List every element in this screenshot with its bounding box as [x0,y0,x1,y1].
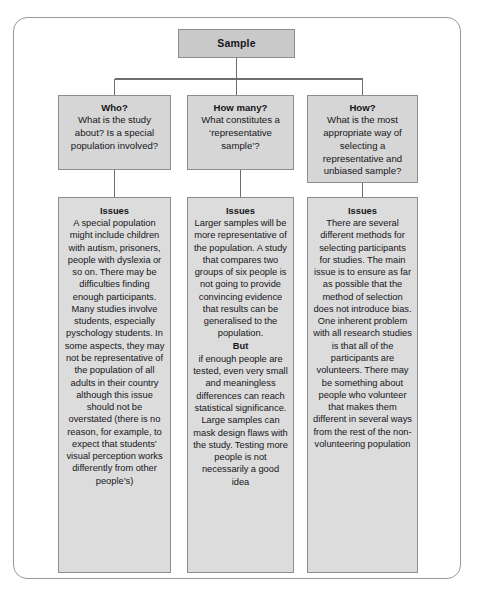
issues-heading-how: Issues [313,205,412,217]
issues-paragraph-1-who: A special population might include child… [64,217,165,303]
question-box-how-many[interactable]: How many? What constitutes a ‘representa… [187,95,294,170]
root-node-sample[interactable]: Sample [178,29,295,58]
question-box-who[interactable]: Who? What is the study about? Is a speci… [58,95,171,170]
issues-heading-who: Issues [64,205,165,217]
issues-heading-how-many: Issues [193,205,288,217]
issues-subheading-but: But [193,340,288,353]
issues-paragraph-1-how: There are several different methods for … [313,217,412,315]
issues-paragraph-2-how: One inherent problem with all research s… [313,315,412,450]
question-heading-who: Who? [65,102,164,114]
question-body-who: What is the study about? Is a special po… [65,114,164,152]
question-heading-how-many: How many? [194,102,287,114]
issues-paragraph-1-how-many: Larger samples will be more representati… [193,217,288,340]
question-heading-how: How? [314,102,411,114]
issues-box-how-many[interactable]: Issues Larger samples will be more repre… [187,197,294,573]
issues-box-how[interactable]: Issues There are several different metho… [307,197,418,573]
root-node-label: Sample [217,37,256,50]
question-box-how[interactable]: How? What is the most appropriate way of… [307,95,418,183]
question-body-how-many: What constitutes a ‘representative sampl… [194,114,287,152]
sampling-issues-flowchart: Sample Who? What is the study about? Is … [0,0,477,601]
issues-paragraph-2-who: Many studies involve students, especiall… [64,303,165,487]
question-body-how: What is the most appropriate way of sele… [314,114,411,178]
issues-subparagraph-but: if enough people are tested, even very s… [193,353,288,488]
issues-box-who[interactable]: Issues A special population might includ… [58,197,171,573]
